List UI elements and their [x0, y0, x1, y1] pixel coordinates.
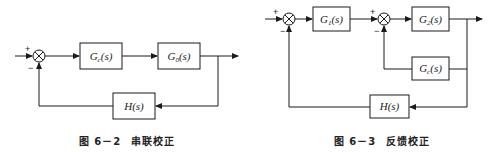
local-feedback-block: Gc(s): [412, 57, 449, 80]
feedback-block: H(s): [370, 95, 409, 118]
svg-text:G2(s): G2(s): [419, 13, 442, 27]
block-label-arg: (s): [430, 62, 442, 75]
plant-block: G0(s): [158, 43, 200, 69]
block-label-arg: (s): [430, 13, 442, 26]
block-label-main: G: [419, 62, 427, 74]
local-feedback-return-line: [384, 26, 412, 69]
figure-caption: 图 6－2串联校正: [79, 135, 175, 147]
minus-sign: −: [280, 26, 285, 36]
svg-text:G0(s): G0(s): [167, 50, 190, 64]
plus-sign: +: [370, 7, 375, 17]
minus-sign: −: [374, 26, 379, 36]
plus-sign: +: [25, 44, 30, 54]
inner-summing-junction: [378, 13, 390, 25]
block-diagrams: + − Gc(s) G0(s): [0, 0, 497, 152]
forward-block-2: G2(s): [412, 7, 449, 31]
block-label-main: G: [419, 13, 427, 25]
svg-text:H(s): H(s): [123, 100, 144, 113]
figure-feedback-compensation: + − G1(s) + − G2(s: [265, 7, 482, 147]
svg-text:H(s): H(s): [379, 100, 400, 113]
block-label-main: G: [90, 50, 98, 62]
svg-text:Gc(s): Gc(s): [90, 50, 113, 64]
figure-caption: 图 6－3反馈校正: [334, 135, 430, 147]
svg-text:G1(s): G1(s): [320, 13, 343, 27]
block-label-arg: (s): [101, 50, 113, 63]
feedback-block: H(s): [113, 93, 155, 119]
summing-junction: [33, 50, 45, 62]
plus-sign: +: [273, 7, 278, 17]
block-label-arg: (s): [331, 13, 343, 26]
feedback-return-line: [289, 26, 370, 107]
block-label-main: G: [167, 50, 175, 62]
figure-series-compensation: + − Gc(s) G0(s): [15, 43, 238, 147]
controller-block: Gc(s): [80, 43, 122, 69]
outer-summing-junction: [283, 13, 295, 25]
block-label-main: G: [320, 13, 328, 25]
block-label-arg: (s): [388, 100, 400, 113]
forward-block-1: G1(s): [313, 7, 350, 31]
block-label-arg: (s): [132, 100, 144, 113]
svg-text:Gc(s): Gc(s): [419, 62, 442, 76]
local-feedback-line: [449, 19, 467, 69]
minus-sign: −: [28, 63, 33, 73]
block-label-arg: (s): [179, 50, 191, 63]
